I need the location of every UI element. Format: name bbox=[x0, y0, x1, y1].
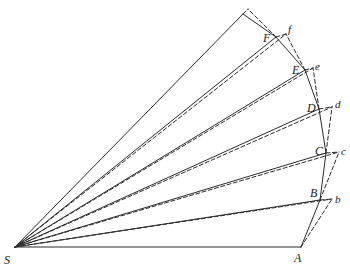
dashed-radius-Sd bbox=[15, 107, 332, 247]
dashed-top-edge bbox=[243, 9, 248, 14]
label-B: B bbox=[310, 186, 318, 200]
label-c: c bbox=[341, 145, 346, 157]
label-E: E bbox=[291, 63, 300, 77]
label-A: A bbox=[293, 251, 302, 265]
dashed-radius-Sf bbox=[15, 34, 286, 247]
label-d: d bbox=[335, 98, 341, 110]
dashed-Ff bbox=[276, 34, 286, 37]
kepler-equal-areas-diagram: S A B C D E F b c d e f bbox=[0, 0, 350, 270]
label-D: D bbox=[306, 101, 316, 115]
orbit-polygon bbox=[243, 14, 326, 247]
dashed-Ab bbox=[301, 199, 332, 247]
label-f: f bbox=[288, 23, 293, 35]
label-e: e bbox=[315, 60, 320, 72]
dashed-Cd bbox=[326, 107, 332, 153]
label-C: C bbox=[315, 144, 324, 158]
radius-SE bbox=[15, 70, 305, 247]
dashed-radius-Sb bbox=[15, 199, 332, 247]
radius-SD bbox=[15, 109, 319, 247]
radius-SF bbox=[15, 37, 276, 247]
label-F: F bbox=[262, 31, 271, 45]
label-S: S bbox=[4, 253, 10, 267]
dashed-F-top bbox=[248, 9, 276, 37]
label-b: b bbox=[335, 193, 341, 205]
